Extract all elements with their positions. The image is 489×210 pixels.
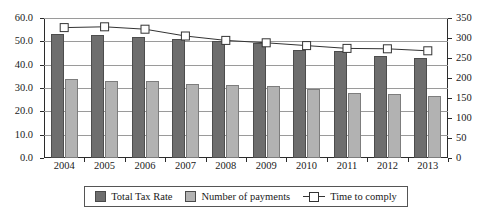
bar-group <box>293 18 320 158</box>
bar-group <box>172 18 199 158</box>
legend-swatch-icon-total-tax-rate <box>95 191 106 202</box>
tick-mark-right <box>448 38 452 39</box>
y-axis-right-labels: 050100150200250300350 <box>451 0 489 178</box>
bar-total-tax-rate <box>293 50 306 158</box>
y-axis-right-tick-label: 0 <box>456 153 461 163</box>
y-axis-right-tick-label: 200 <box>456 73 472 83</box>
axes <box>44 18 448 158</box>
chart-container: 0.010.020.030.040.050.060.0 050100150200… <box>0 0 489 210</box>
y-axis-left-labels: 0.010.020.030.040.050.060.0 <box>0 0 38 178</box>
y-axis-left-tick-label: 60.0 <box>15 13 33 23</box>
bar-total-tax-rate <box>172 39 185 158</box>
tick-mark-right <box>448 138 452 139</box>
bar-total-tax-rate <box>253 43 266 158</box>
bar-group <box>414 18 441 158</box>
bar-group <box>132 18 159 158</box>
legend-label-number-of-payments: Number of payments <box>201 191 290 202</box>
x-axis-tick-label: 2013 <box>417 160 438 171</box>
bar-total-tax-rate <box>374 56 387 158</box>
plot-area: 0.010.020.030.040.050.060.0 050100150200… <box>0 0 489 178</box>
chart-legend: Total Tax Rate Number of payments Time t… <box>84 186 408 207</box>
x-axis-tick-label: 2010 <box>296 160 317 171</box>
bar-number-of-payments <box>65 79 78 158</box>
x-axis-labels: 2004200520062007200820092010201120122013 <box>44 160 448 178</box>
bar-number-of-payments <box>146 81 159 158</box>
bar-group <box>51 18 78 158</box>
bar-group <box>212 18 239 158</box>
bar-total-tax-rate <box>51 34 64 158</box>
x-axis-tick-label: 2005 <box>94 160 115 171</box>
y-axis-right-tick-label: 350 <box>456 13 472 23</box>
legend-item-total-tax-rate: Total Tax Rate <box>95 191 172 202</box>
bar-number-of-payments <box>307 89 320 158</box>
bar-number-of-payments <box>388 94 401 158</box>
legend-item-time-to-comply: Time to comply <box>303 191 397 202</box>
y-axis-left-tick-label: 50.0 <box>15 36 33 46</box>
x-axis-tick-label: 2011 <box>337 160 358 171</box>
bar-group <box>374 18 401 158</box>
y-axis-left-tick-label: 40.0 <box>15 60 33 70</box>
bar-total-tax-rate <box>132 37 145 158</box>
tick-mark-right <box>448 58 452 59</box>
bar-total-tax-rate <box>212 41 225 158</box>
legend-swatch-icon-number-of-payments <box>185 191 196 202</box>
y-axis-left-tick-label: 10.0 <box>15 130 33 140</box>
x-axis-tick-label: 2004 <box>54 160 75 171</box>
tick-mark-right <box>448 18 452 19</box>
legend-item-number-of-payments: Number of payments <box>185 191 290 202</box>
legend-label-total-tax-rate: Total Tax Rate <box>111 191 172 202</box>
tick-mark-x <box>448 158 449 162</box>
y-axis-left-tick-label: 20.0 <box>15 106 33 116</box>
bar-group <box>253 18 280 158</box>
bars-layer <box>44 18 448 158</box>
bar-number-of-payments <box>348 93 361 158</box>
tick-mark-right <box>448 78 452 79</box>
bar-group <box>334 18 361 158</box>
y-axis-right-tick-label: 100 <box>456 113 472 123</box>
bar-number-of-payments <box>226 85 239 158</box>
x-axis-tick-label: 2007 <box>175 160 196 171</box>
bar-number-of-payments <box>267 86 280 158</box>
x-axis-tick-label: 2006 <box>135 160 156 171</box>
y-axis-right-tick-label: 250 <box>456 53 472 63</box>
y-axis-left-tick-label: 0.0 <box>20 153 33 163</box>
legend-line-marker-icon-time-to-comply <box>303 192 325 202</box>
y-axis-left-tick-label: 30.0 <box>15 83 33 93</box>
bar-number-of-payments <box>186 84 199 158</box>
y-axis-right-tick-label: 300 <box>456 33 472 43</box>
y-axis-right-tick-label: 150 <box>456 93 472 103</box>
bar-group <box>91 18 118 158</box>
x-axis-tick-label: 2009 <box>256 160 277 171</box>
x-axis-tick-label: 2012 <box>377 160 398 171</box>
y-axis-right-tick-label: 50 <box>456 133 467 143</box>
bar-total-tax-rate <box>334 51 347 158</box>
tick-mark-right <box>448 98 452 99</box>
tick-mark-left <box>40 158 44 159</box>
bar-total-tax-rate <box>91 35 104 158</box>
bar-total-tax-rate <box>414 58 427 158</box>
bar-number-of-payments <box>428 96 441 158</box>
x-axis-tick-label: 2008 <box>215 160 236 171</box>
legend-label-time-to-comply: Time to comply <box>330 191 397 202</box>
bar-number-of-payments <box>105 81 118 158</box>
tick-mark-right <box>448 118 452 119</box>
